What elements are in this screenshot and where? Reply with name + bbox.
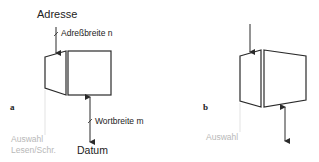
figure-b-right-panel (264, 50, 306, 107)
figure-b-left-panel (240, 50, 261, 107)
address-label: Adresse (37, 9, 77, 20)
figure-a-label: a (10, 103, 15, 112)
figure-a-left-panel (45, 51, 66, 95)
select-label-a-line2: Lesen/Schr. (11, 146, 56, 155)
figure-a-memory-block (45, 51, 111, 95)
diagram-canvas (0, 0, 319, 162)
select-label-b: Auswahl (206, 133, 238, 142)
select-label-a-line1: Auswahl (11, 135, 43, 144)
word-width-label: Wortbreite m (95, 117, 144, 126)
figure-a-right-panel (68, 51, 111, 95)
data-label: Datum (77, 145, 108, 156)
figure-b-label: b (203, 103, 208, 112)
figure-b-memory-block (240, 50, 306, 107)
address-width-label: Adreßbreite n (61, 29, 113, 38)
